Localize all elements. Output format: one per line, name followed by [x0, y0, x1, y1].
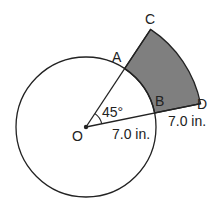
label-angle-45: 45° [102, 104, 123, 120]
label-d: D [197, 96, 207, 112]
label-b: B [155, 93, 164, 109]
angle-arc-45 [95, 114, 102, 124]
label-o: O [72, 128, 83, 144]
center-point-o [84, 125, 88, 129]
geometry-diagram: O A B C D 45° 7.0 in. 7.0 in. [0, 0, 222, 209]
label-radius: 7.0 in. [112, 126, 150, 142]
label-a: A [112, 49, 122, 65]
label-extension: 7.0 in. [168, 113, 206, 129]
label-c: C [145, 11, 155, 27]
